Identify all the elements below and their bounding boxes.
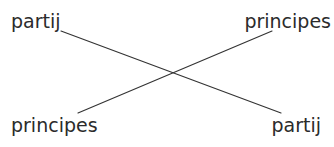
label-top-right: principes	[244, 11, 331, 31]
connector-line-partij	[61, 31, 281, 113]
connector-line-principes	[78, 31, 272, 113]
label-bottom-right: partij	[271, 115, 321, 135]
label-top-left: partij	[11, 11, 61, 31]
crossing-diagram: partij principes principes partij	[0, 0, 334, 147]
label-bottom-left: principes	[11, 115, 98, 135]
